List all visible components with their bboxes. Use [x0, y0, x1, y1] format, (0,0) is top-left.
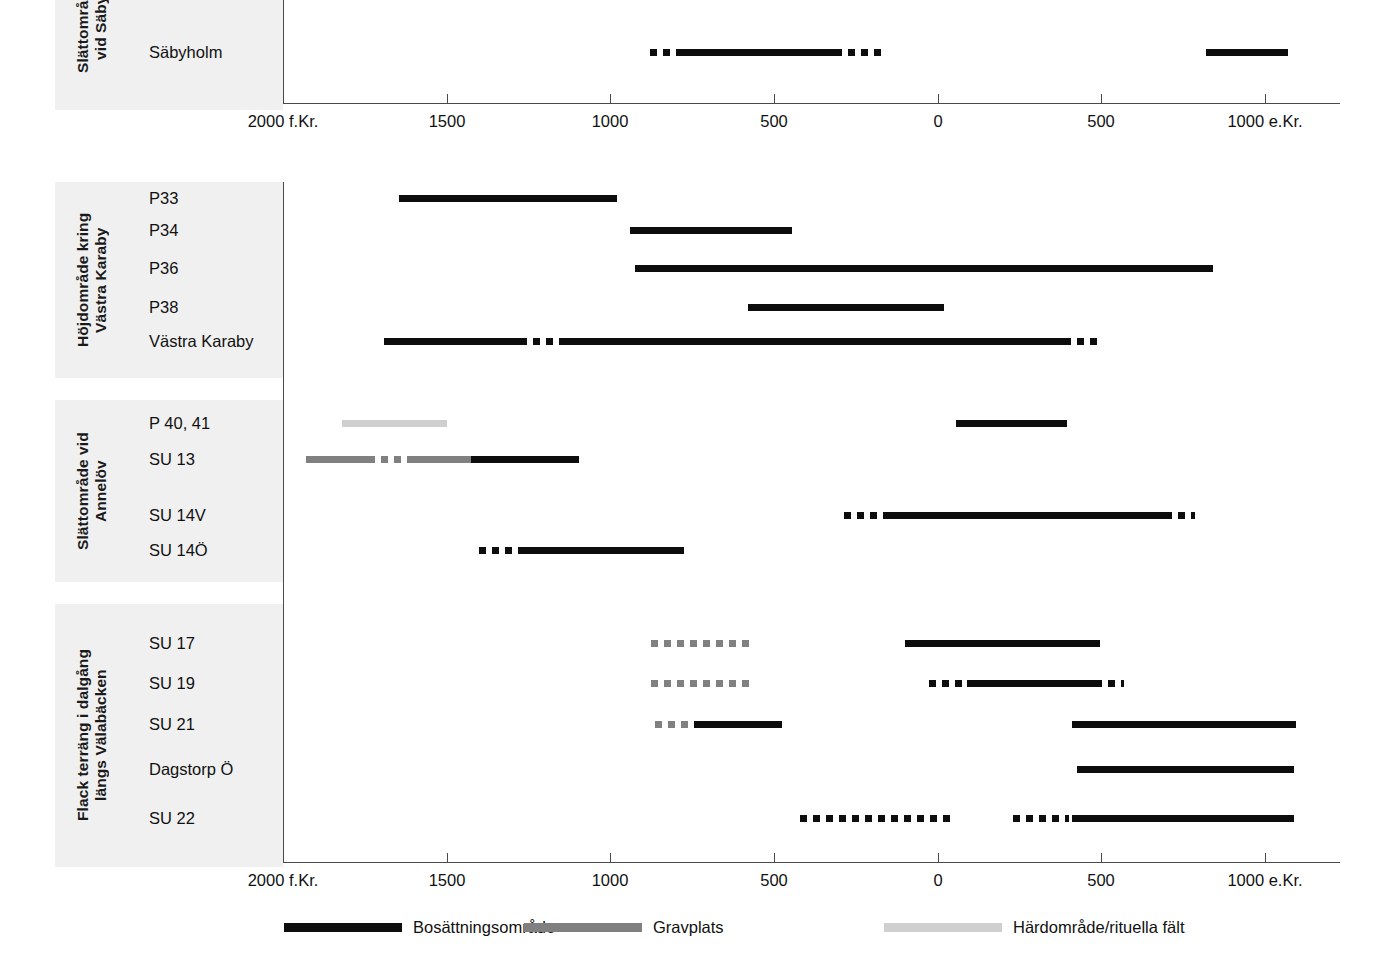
axis-bottom-tick-label-2: 1000: [592, 872, 629, 889]
bar-annelov-2-2: [1165, 512, 1194, 519]
axis-bottom-tick-0: [283, 853, 284, 862]
axis-top-tick-label-0: 2000 f.Kr.: [248, 113, 319, 130]
legend-item-settle: Bosättningsområde: [284, 916, 555, 938]
axis-top-tick-3: [774, 94, 775, 103]
bar-valabacken-0-1: [905, 640, 1100, 647]
group-title-annelov: Slättområde vid Annelöv: [62, 400, 122, 582]
group-title-vastra-karaby: Höjdområde kring Västra Karaby: [62, 182, 122, 378]
axis-top-tick-label-3: 500: [760, 113, 788, 130]
row-label-annelov-2: SU 14V: [149, 507, 206, 524]
bar-saby-0-2: [835, 49, 882, 56]
row-label-vastra-karaby-4: Västra Karaby: [149, 333, 254, 350]
row-label-annelov-3: SU 14Ö: [149, 542, 208, 559]
row-label-valabacken-3: Dagstorp Ö: [149, 761, 233, 778]
row-label-saby-0: Säbyholm: [149, 44, 222, 61]
axis-bottom-tick-label-0: 2000 f.Kr.: [248, 872, 319, 889]
bar-valabacken-4-1: [1013, 815, 1069, 822]
bar-annelov-1-1: [368, 456, 411, 463]
axis-bottom-tick-label-3: 500: [760, 872, 788, 889]
axis-top-tick-1: [447, 94, 448, 103]
group-title-saby: Slättområde vid Säby: [62, 0, 122, 110]
bar-vastra-karaby-3-0: [748, 304, 944, 311]
axis-bottom-tick-4: [938, 853, 939, 862]
axis-top-tick-4: [938, 94, 939, 103]
row-label-annelov-0: P 40, 41: [149, 415, 210, 432]
axis-top-tick-6: [1265, 94, 1266, 103]
legend-label-hearth: Härdområde/rituella fält: [1013, 919, 1185, 936]
bar-vastra-karaby-4-1: [520, 338, 561, 345]
axis-top-tick-2: [610, 94, 611, 103]
bar-vastra-karaby-4-0: [384, 338, 520, 345]
axis-bottom-tick-label-6: 1000 e.Kr.: [1227, 872, 1302, 889]
bar-valabacken-4-2: [1072, 815, 1295, 822]
bar-saby-0-0: [650, 49, 676, 56]
legend-swatch-hearth: [884, 923, 1002, 932]
axis-top-tick-label-1: 1500: [429, 113, 466, 130]
bar-valabacken-2-1: [694, 721, 782, 728]
group-title-valabacken: Flack terräng i dalgång längs Välabäcken: [62, 604, 122, 867]
row-label-valabacken-2: SU 21: [149, 716, 195, 733]
axis-bottom-tick-label-4: 0: [933, 872, 942, 889]
row-label-valabacken-0: SU 17: [149, 635, 195, 652]
axis-top-tick-label-4: 0: [933, 113, 942, 130]
bar-annelov-0-1: [956, 420, 1067, 427]
legend-swatch-settle: [284, 923, 402, 932]
axis-top-horizontal: [283, 103, 1340, 104]
row-label-vastra-karaby-1: P34: [149, 222, 178, 239]
bar-vastra-karaby-4-3: [1064, 338, 1098, 345]
bar-vastra-karaby-2-0: [635, 265, 1101, 272]
axis-bottom-tick-5: [1101, 853, 1102, 862]
axis-top-tick-0: [283, 94, 284, 103]
row-label-vastra-karaby-0: P33: [149, 190, 178, 207]
legend-label-grave: Gravplats: [653, 919, 724, 936]
axis-top-tick-5: [1101, 94, 1102, 103]
axis-top-tick-label-6: 1000 e.Kr.: [1227, 113, 1302, 130]
axis-bottom-tick-2: [610, 853, 611, 862]
bar-saby-0-1: [676, 49, 835, 56]
bar-valabacken-1-2: [967, 680, 1095, 687]
legend: BosättningsområdeGravplatsHärdområde/rit…: [0, 916, 1379, 946]
axis-top-vertical: [283, 0, 284, 103]
bar-vastra-karaby-0-0: [399, 195, 617, 202]
axis-bottom-vertical: [283, 182, 284, 862]
bar-valabacken-1-0: [651, 680, 754, 687]
axis-bottom-tick-label-5: 500: [1087, 872, 1115, 889]
row-label-valabacken-4: SU 22: [149, 810, 195, 827]
bar-annelov-1-0: [306, 456, 368, 463]
bar-annelov-1-3: [471, 456, 579, 463]
bar-annelov-0-0: [342, 420, 447, 427]
axis-bottom-tick-3: [774, 853, 775, 862]
timeline-chart: Slättområde vid SäbySäbyholmHöjdområde k…: [0, 0, 1379, 957]
bar-vastra-karaby-4-2: [561, 338, 1063, 345]
row-label-vastra-karaby-3: P38: [149, 299, 178, 316]
bar-vastra-karaby-1-0: [630, 227, 792, 234]
bar-annelov-3-0: [479, 547, 522, 554]
bar-annelov-3-1: [522, 547, 684, 554]
bar-vastra-karaby-2-2: [1108, 265, 1213, 272]
axis-bottom-horizontal: [283, 862, 1340, 863]
bar-valabacken-4-0: [800, 815, 955, 822]
axis-bottom-tick-6: [1265, 853, 1266, 862]
bar-vastra-karaby-2-1: [1101, 265, 1108, 272]
bar-valabacken-0-0: [651, 640, 754, 647]
bar-saby-0-3: [1206, 49, 1288, 56]
bar-annelov-2-1: [887, 512, 1165, 519]
legend-item-hearth: Härdområde/rituella fält: [884, 916, 1185, 938]
bar-valabacken-2-2: [1072, 721, 1296, 728]
axis-bottom-tick-1: [447, 853, 448, 862]
bar-valabacken-1-1: [929, 680, 967, 687]
row-label-annelov-1: SU 13: [149, 451, 195, 468]
axis-bottom-tick-label-1: 1500: [429, 872, 466, 889]
legend-swatch-grave: [524, 923, 642, 932]
bar-annelov-2-0: [844, 512, 887, 519]
axis-top-tick-label-5: 500: [1087, 113, 1115, 130]
axis-top-tick-label-2: 1000: [592, 113, 629, 130]
bar-valabacken-3-0: [1077, 766, 1295, 773]
row-label-vastra-karaby-2: P36: [149, 260, 178, 277]
bar-valabacken-1-3: [1095, 680, 1124, 687]
legend-item-grave: Gravplats: [524, 916, 724, 938]
row-label-valabacken-1: SU 19: [149, 675, 195, 692]
